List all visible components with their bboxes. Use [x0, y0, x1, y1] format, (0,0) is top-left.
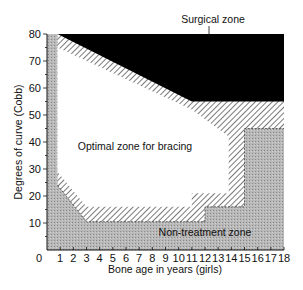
optimal-zone-label: Optimal zone for bracing: [78, 140, 193, 152]
x-tick-label: 15: [238, 252, 250, 264]
y-tick-label: 80: [29, 28, 41, 40]
y-tick-label: 20: [29, 190, 41, 202]
x-tick-label: 4: [97, 252, 103, 264]
y-ticks: 1020304050607080: [29, 28, 47, 237]
x-tick-label: 16: [252, 252, 264, 264]
x-tick-label: 0: [36, 252, 42, 264]
x-axis-title: Bone age in years (girls): [108, 263, 222, 275]
y-tick-label: 60: [29, 82, 41, 94]
y-tick-label: 40: [29, 136, 41, 148]
x-tick-label: 17: [265, 252, 277, 264]
x-tick-label: 18: [278, 252, 290, 264]
x-tick-label: 3: [83, 252, 89, 264]
bracing-zone-chart: 0123456789101112131415161718 10203040506…: [0, 0, 303, 290]
x-tick-label: 2: [70, 252, 76, 264]
y-tick-label: 50: [29, 109, 41, 121]
non-treatment-zone-label: Non-treatment zone: [159, 226, 252, 238]
y-tick-label: 70: [29, 55, 41, 67]
y-tick-label: 10: [29, 217, 41, 229]
surgical-zone-label: Surgical zone: [181, 13, 245, 25]
x-tick-label: 1: [57, 252, 63, 264]
y-axis-title: Degrees of curve (Cobb): [12, 85, 24, 200]
x-tick-label: 14: [225, 252, 237, 264]
y-tick-label: 30: [29, 163, 41, 175]
chart-svg: 0123456789101112131415161718 10203040506…: [0, 0, 303, 290]
